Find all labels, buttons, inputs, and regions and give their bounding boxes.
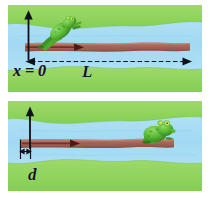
panel-frog-landed xyxy=(8,101,202,191)
displacement-label: d xyxy=(28,166,37,183)
physics-figure: x = 0 xyxy=(0,0,210,198)
frog-pupil xyxy=(166,122,168,124)
origin-label: x = 0 xyxy=(13,63,46,79)
frog-sitting xyxy=(136,115,180,149)
frog-eye-far xyxy=(159,121,162,124)
frog-front-foot xyxy=(166,137,174,140)
grass-bank-bottom xyxy=(8,160,202,191)
length-label: L xyxy=(82,63,92,80)
frog-snout xyxy=(171,129,176,133)
frog-jumping xyxy=(30,10,82,52)
frog-pupil xyxy=(72,18,73,19)
frog-eye-far xyxy=(67,17,69,19)
